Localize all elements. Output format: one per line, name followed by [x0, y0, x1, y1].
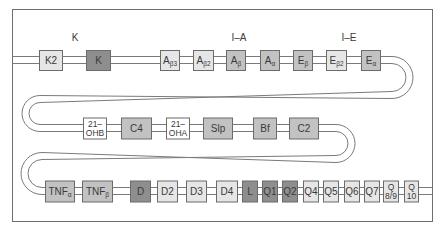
gene-label: Q2 — [283, 186, 297, 197]
gene-label: Q7 — [365, 186, 379, 197]
gene-label: Q1 — [263, 186, 277, 197]
gene-label: Q4 — [304, 186, 318, 197]
gene-box-d4: D4 — [217, 181, 238, 202]
gene-box-a: Aα — [261, 51, 280, 71]
gene-box-d3: D3 — [187, 181, 207, 202]
gene-box-tnf: TNFβ — [83, 181, 113, 202]
gene-label-line1: Q — [408, 182, 415, 192]
gene-box-a-2: Aβ2 — [194, 51, 214, 71]
gene-box-bf: Bf — [254, 118, 277, 139]
gene-label: K — [95, 55, 102, 66]
gene-box-slp: Slp — [204, 118, 233, 139]
gene-box-q6: Q6 — [345, 181, 360, 202]
gene-box-e-2: Eβ2 — [327, 51, 347, 71]
gene-label: Q6 — [345, 186, 359, 197]
gene-label: Slp — [211, 123, 226, 134]
gene-label-subscript: β — [237, 60, 241, 68]
region-label-k: K — [72, 32, 79, 43]
gene-label: D2 — [161, 186, 174, 197]
gene-box-a-3: Aβ3 — [161, 51, 180, 71]
gene-box-21-ohb: 21–OHB — [84, 118, 107, 139]
gene-label-line1: 21– — [88, 119, 102, 129]
gene-label-subscript: α — [271, 60, 275, 67]
gene-box-k: K — [87, 51, 111, 71]
gene-label-subscript: β2 — [203, 60, 211, 68]
gene-box-tnf: TNFα — [46, 181, 75, 202]
gene-map-diagram: K I–A I–E K2KAβ3Aβ2AβAαEβEβ2Eα21–OHBC421… — [0, 0, 441, 232]
gene-label: D — [137, 186, 144, 197]
gene-label-subscript: α — [68, 191, 72, 198]
gene-label-line1: Q — [388, 182, 395, 192]
gene-box-q5: Q5 — [324, 181, 339, 202]
gene-box-k2: K2 — [40, 51, 63, 71]
gene-box-d: D — [131, 181, 151, 202]
gene-box-q7: Q7 — [365, 181, 380, 202]
gene-label: K2 — [45, 55, 58, 66]
gene-box-d2: D2 — [158, 181, 178, 202]
gene-label-subscript: β3 — [170, 60, 178, 68]
gene-label-line1: 21– — [171, 119, 185, 129]
gene-box-a: Aβ — [227, 51, 246, 71]
strand-lower-segment-2 — [28, 132, 433, 188]
region-label-i-e: I–E — [341, 32, 356, 43]
gene-label-line2: OHA — [169, 128, 188, 138]
gene-box-q4: Q4 — [304, 181, 319, 202]
gene-box-q2: Q2 — [283, 181, 298, 202]
gene-box-c4: C4 — [122, 118, 152, 139]
gene-label: D4 — [221, 186, 234, 197]
gene-box-l: L — [243, 181, 258, 202]
gene-label-subscript: β — [304, 60, 308, 68]
gene-label: Q5 — [324, 186, 338, 197]
diagram-canvas: K I–A I–E K2KAβ3Aβ2AβAαEβEβ2Eα21–OHBC421… — [0, 0, 441, 232]
gene-box-c2: C2 — [290, 118, 319, 139]
gene-boxes: K2KAβ3Aβ2AβAαEβEβ2Eα21–OHBC421–OHASlpBfC… — [40, 51, 419, 203]
gene-label-subscript: β — [105, 191, 109, 199]
gene-box-q1: Q1 — [263, 181, 278, 202]
gene-box-q10: Q10 — [405, 181, 419, 202]
region-label-i-a: I–A — [231, 32, 246, 43]
gene-box-e: Eα — [362, 51, 381, 71]
gene-label-line2: 10 — [407, 191, 417, 201]
gene-label-subscript: α — [372, 60, 376, 67]
gene-label: C4 — [130, 123, 143, 134]
gene-label-subscript: β2 — [336, 60, 344, 68]
gene-box-21-oha: 21–OHA — [167, 118, 190, 139]
region-labels: K I–A I–E — [72, 32, 357, 43]
gene-label: D3 — [190, 186, 203, 197]
gene-label: Bf — [260, 123, 270, 134]
gene-label-line2: 8/9 — [385, 191, 397, 201]
gene-label-line2: OHB — [86, 128, 105, 138]
gene-label: C2 — [298, 123, 311, 134]
gene-box-e: Eβ — [294, 51, 313, 71]
gene-label: L — [247, 186, 253, 197]
strand-upper-segment-2 — [13, 64, 407, 125]
gene-box-q8-9: Q8/9 — [384, 181, 399, 202]
